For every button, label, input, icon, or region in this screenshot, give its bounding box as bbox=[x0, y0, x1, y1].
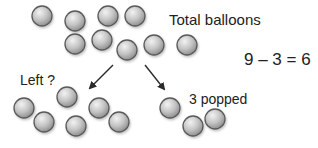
balloon-icon bbox=[98, 6, 118, 26]
balloon-icon bbox=[125, 6, 145, 26]
popped-label: 3 popped bbox=[189, 92, 247, 106]
balloon-icon bbox=[57, 87, 77, 107]
balloon-icon bbox=[160, 98, 180, 118]
arrows-group bbox=[90, 65, 164, 89]
balloon-icon bbox=[65, 11, 85, 31]
balloon-icon bbox=[92, 30, 112, 50]
balloon-icon bbox=[144, 35, 164, 55]
balloon-icon bbox=[34, 112, 54, 132]
balloon-icon bbox=[109, 112, 129, 132]
balloon-icon bbox=[117, 40, 137, 60]
equation-label: 9 – 3 = 6 bbox=[244, 51, 311, 68]
balloon-icon bbox=[66, 116, 86, 136]
balloon-icon bbox=[177, 35, 197, 55]
balloon-icon bbox=[65, 34, 85, 54]
arrow-to-left-icon bbox=[90, 65, 113, 88]
balloon-icon bbox=[14, 98, 34, 118]
balloon-icon bbox=[89, 98, 109, 118]
left-balloons-group bbox=[14, 87, 129, 136]
balloon-icon bbox=[183, 116, 203, 136]
left-question-label: Left ? bbox=[20, 73, 55, 87]
arrow-to-popped-icon bbox=[145, 65, 164, 89]
balloon-icon bbox=[32, 6, 52, 26]
balloon-icon bbox=[205, 109, 225, 129]
total-balloons-label: Total balloons bbox=[169, 12, 261, 27]
